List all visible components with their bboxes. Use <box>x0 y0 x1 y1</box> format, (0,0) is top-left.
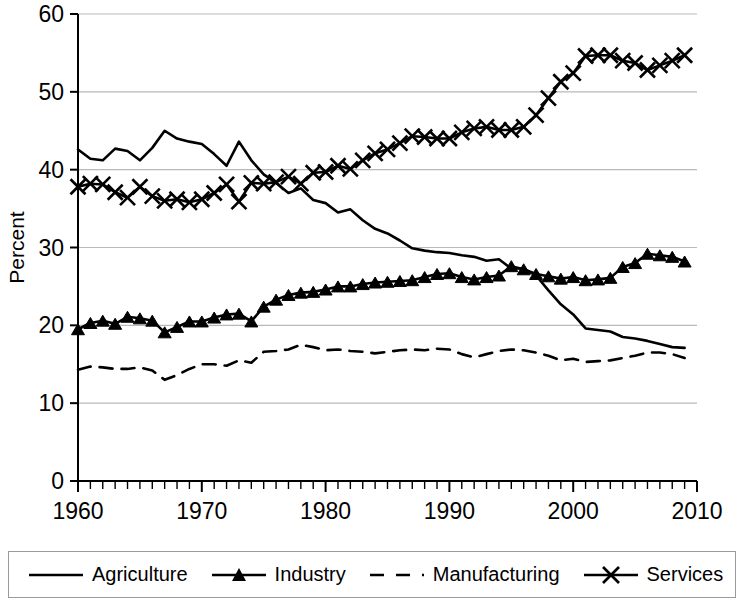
legend-label: Industry <box>275 563 346 586</box>
legend-item-industry[interactable]: Industry <box>210 563 346 586</box>
series-line-services <box>78 55 685 202</box>
series-services <box>71 48 693 210</box>
series-agriculture <box>78 131 685 348</box>
series-line-industry <box>78 254 685 333</box>
y-axis-ticks: 0102030405060 <box>38 1 78 494</box>
legend-swatch-line-dashed <box>368 566 426 584</box>
y-tick-label-60: 60 <box>38 1 64 27</box>
marker-triangle <box>270 294 283 305</box>
chart-legend: AgricultureIndustryManufacturingServices <box>8 551 736 598</box>
legend-label: Manufacturing <box>433 563 560 586</box>
marker-x <box>541 91 556 106</box>
series-industry <box>72 248 692 338</box>
y-tick-label-50: 50 <box>38 79 64 105</box>
x-tick-label-1980: 1980 <box>300 498 351 524</box>
y-tick-label-20: 20 <box>38 312 64 338</box>
marker-x <box>231 194 246 209</box>
marker-x <box>219 177 234 192</box>
marker-x <box>652 58 667 73</box>
chart-figure: 0102030405060196019701980199020002010Yea… <box>0 0 745 606</box>
legend-item-services[interactable]: Services <box>582 563 724 586</box>
y-tick-label-40: 40 <box>38 157 64 183</box>
marker-x <box>132 179 147 194</box>
x-tick-label-1970: 1970 <box>176 498 227 524</box>
marker-x <box>566 66 581 81</box>
line-chart-svg: 0102030405060196019701980199020002010Yea… <box>0 0 745 540</box>
x-axis-minor-ticks <box>78 481 697 492</box>
marker-triangle <box>616 261 629 272</box>
series-line-manufacturing <box>78 345 685 380</box>
legend-swatch-line-triangle <box>210 566 268 584</box>
x-tick-label-2010: 2010 <box>671 498 722 524</box>
legend-label: Agriculture <box>92 563 188 586</box>
marker-x <box>553 74 568 89</box>
marker-triangle <box>171 321 184 332</box>
y-tick-label-10: 10 <box>38 390 64 416</box>
axis-lines <box>78 14 697 485</box>
legend-items-row: AgricultureIndustryManufacturingServices <box>9 552 735 597</box>
x-tick-label-1960: 1960 <box>52 498 103 524</box>
legend-swatch-line-x <box>582 566 640 584</box>
legend-label: Services <box>647 563 724 586</box>
x-tick-label-1990: 1990 <box>424 498 475 524</box>
marker-x <box>529 108 544 123</box>
x-tick-label-2000: 2000 <box>548 498 599 524</box>
marker-x <box>145 189 160 204</box>
legend-item-manufacturing[interactable]: Manufacturing <box>368 563 560 586</box>
y-tick-label-30: 30 <box>38 235 64 261</box>
y-tick-label-0: 0 <box>51 468 64 494</box>
chart-plot-container: 0102030405060196019701980199020002010Yea… <box>0 0 745 540</box>
series-line-agriculture <box>78 131 685 348</box>
x-axis-labels: 196019701980199020002010 <box>52 498 722 524</box>
marker-triangle <box>678 256 691 267</box>
x-axis-title: Year <box>366 536 408 540</box>
legend-item-agriculture[interactable]: Agriculture <box>27 563 188 586</box>
series-manufacturing <box>78 345 685 380</box>
legend-swatch-line-plain <box>27 566 85 584</box>
y-axis-title: Percent <box>5 211 28 284</box>
